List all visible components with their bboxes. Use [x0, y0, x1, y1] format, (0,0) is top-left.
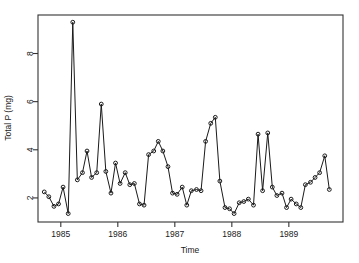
data-series-markers: [42, 20, 331, 215]
x-tick-label: 1987: [165, 229, 184, 239]
plot-frame: [38, 15, 343, 222]
x-tick-label: 1988: [222, 229, 241, 239]
y-tick-label: 4: [25, 147, 35, 152]
data-series-line: [44, 22, 329, 213]
y-tick-label: 6: [25, 99, 35, 104]
x-axis: 19851986198719881989: [51, 222, 298, 239]
x-tick-label: 1985: [51, 229, 70, 239]
x-axis-title: Time: [181, 245, 200, 255]
y-axis-title: Total P (mg): [3, 95, 13, 141]
time-series-plot: 2468 19851986198719881989 Time Total P (…: [0, 0, 359, 263]
y-tick-label: 8: [25, 51, 35, 56]
y-tick-label: 2: [25, 195, 35, 200]
y-axis: 2468: [25, 51, 38, 200]
x-tick-label: 1986: [108, 229, 127, 239]
data-point: [42, 190, 46, 194]
x-tick-label: 1989: [279, 229, 298, 239]
chart-container: 2468 19851986198719881989 Time Total P (…: [0, 0, 359, 263]
